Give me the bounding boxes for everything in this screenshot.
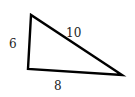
side-label-hypotenuse: 10 bbox=[66, 27, 81, 39]
triangle-diagram: 6 10 8 bbox=[0, 0, 135, 97]
triangle-shape bbox=[0, 0, 135, 97]
triangle-outline bbox=[28, 15, 122, 75]
side-label-bottom: 8 bbox=[54, 80, 62, 92]
side-label-left: 6 bbox=[9, 38, 17, 50]
